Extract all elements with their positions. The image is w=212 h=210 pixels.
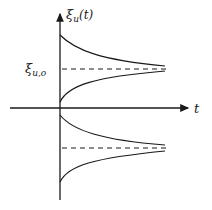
x-axis-label: t: [194, 101, 200, 116]
lower-curve-from-below: [60, 151, 165, 182]
equilibrium-level-label: ξu,o: [25, 61, 47, 78]
upper-curve-from-below: [60, 71, 165, 102]
lower-curve-from-above: [60, 115, 165, 145]
upper-curve-from-above: [60, 35, 165, 66]
diagram-canvas: ξu(t) ξu,o t: [0, 0, 212, 210]
y-axis-label: ξu(t): [66, 7, 93, 24]
